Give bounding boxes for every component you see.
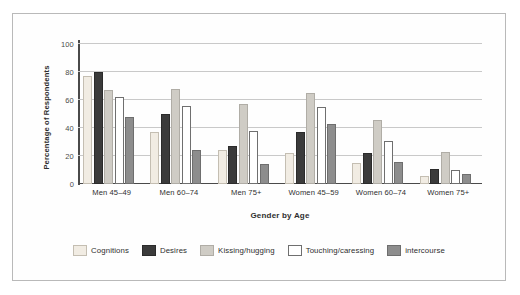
legend-item[interactable]: Cognitions — [73, 245, 129, 256]
bar — [317, 107, 326, 184]
bar — [352, 163, 361, 184]
legend-label: intercourse — [405, 246, 445, 255]
y-tick-label: 20 — [50, 152, 74, 161]
y-tick-label: 40 — [50, 124, 74, 133]
bar — [218, 150, 227, 184]
bar — [260, 164, 269, 184]
bar-group: Women 75+ — [415, 44, 482, 184]
bar — [394, 162, 403, 184]
legend-label: Touching/caressing — [306, 246, 375, 255]
legend-item[interactable]: Desires — [142, 245, 187, 256]
bar — [182, 106, 191, 184]
legend-label: Cognitions — [91, 246, 129, 255]
legend-item[interactable]: Kissing/hugging — [200, 245, 275, 256]
legend-swatch — [142, 245, 156, 256]
x-tick-label: Men 75+ — [213, 188, 280, 197]
bar — [83, 76, 92, 184]
bar — [296, 132, 305, 184]
bar — [451, 170, 460, 184]
bar — [115, 97, 124, 184]
bar — [94, 72, 103, 184]
bar — [171, 89, 180, 184]
bar-group: Men 45–49 — [78, 44, 145, 184]
bar — [150, 132, 159, 184]
bar — [285, 153, 294, 184]
legend-label: Kissing/hugging — [218, 246, 275, 255]
bar-group: Women 45–59 — [280, 44, 347, 184]
x-tick-label: Women 60–74 — [347, 188, 414, 197]
bar — [462, 174, 471, 184]
x-tick-label: Men 60–74 — [145, 188, 212, 197]
bar — [249, 131, 258, 184]
x-tick-label: Women 45–59 — [280, 188, 347, 197]
y-tick-label: 100 — [50, 40, 74, 49]
bar — [161, 114, 170, 184]
plot-area: Men 45–49Men 60–74Men 75+Women 45–59Wome… — [78, 44, 482, 184]
legend-swatch — [288, 245, 302, 256]
x-tick-label: Men 45–49 — [78, 188, 145, 197]
bar — [125, 117, 134, 184]
x-axis-title: Gender by Age — [78, 211, 482, 220]
bar — [228, 146, 237, 184]
legend-swatch — [200, 245, 214, 256]
bar — [104, 90, 113, 184]
bar-group: Women 60–74 — [347, 44, 414, 184]
legend-label: Desires — [160, 246, 187, 255]
legend-item[interactable]: intercourse — [387, 245, 445, 256]
bar — [306, 93, 315, 184]
bar — [239, 104, 248, 184]
bar — [420, 176, 429, 184]
bar — [327, 124, 336, 184]
bar — [430, 169, 439, 184]
legend-swatch — [387, 245, 401, 256]
legend-swatch — [73, 245, 87, 256]
bar — [373, 120, 382, 184]
bar-group: Men 60–74 — [145, 44, 212, 184]
y-tick-label: 0 — [50, 180, 74, 189]
chart-legend: CognitionsDesiresKissing/huggingTouching… — [14, 238, 504, 262]
y-tick-label: 80 — [50, 68, 74, 77]
legend-item[interactable]: Touching/caressing — [288, 245, 375, 256]
y-tick-label: 60 — [50, 96, 74, 105]
bar-group: Men 75+ — [213, 44, 280, 184]
bar — [384, 141, 393, 184]
x-tick-label: Women 75+ — [415, 188, 482, 197]
bar — [363, 153, 372, 184]
y-axis-title: Percentage of Respondents — [42, 48, 51, 188]
bar — [441, 152, 450, 184]
bar — [192, 150, 201, 184]
